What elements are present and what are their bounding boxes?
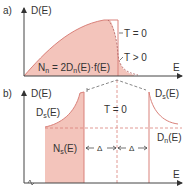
t0-label: T = 0 [124, 28, 147, 39]
dn-label: Dn(E) [157, 132, 181, 144]
gap-arrows [86, 146, 147, 150]
y-axis-label-a: D(E) [31, 5, 52, 16]
ns-fill [45, 92, 84, 183]
x-axis-label-a: E [173, 62, 180, 73]
panel-b: Δ Δ b) D(E) E T = 0 Ds(E) Ds(E) Dn(E) Ns… [3, 80, 182, 185]
tpos-label: T > 0 [124, 52, 147, 63]
temp-label-b: T = 0 [104, 104, 127, 115]
gap-right-label: Δ [129, 144, 135, 153]
panel-a: a) D(E) E T = 0 T > 0 Nn = 2Dn(E)·f(E) [3, 5, 182, 76]
y-axis-label-b: D(E) [31, 88, 52, 99]
gap-left-label: Δ [97, 144, 103, 153]
ns-label: Ns(E) [53, 143, 77, 155]
x-axis-label-b: E [173, 169, 180, 180]
density-of-states-diagram: a) D(E) E T = 0 T > 0 Nn = 2Dn(E)·f(E) [0, 0, 191, 193]
panel-b-label: b) [3, 88, 12, 99]
ds-right-label: Ds(E) [155, 88, 179, 100]
ds-left-label: Ds(E) [36, 107, 60, 119]
panel-a-label: a) [3, 5, 12, 16]
